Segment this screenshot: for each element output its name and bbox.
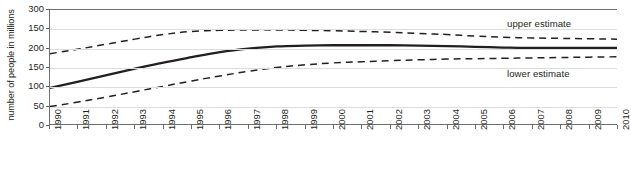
x-tick-label: 1999 (309, 109, 318, 130)
x-tick-mark (305, 125, 306, 129)
x-tick-label: 2004 (451, 109, 460, 130)
x-tick-mark (134, 125, 135, 129)
x-tick-label: 2009 (593, 109, 602, 130)
x-tick-mark (560, 125, 561, 129)
x-tick-label: 1993 (138, 109, 147, 130)
x-tick-mark (163, 125, 164, 129)
x-tick-mark (589, 125, 590, 129)
x-tick-label: 2001 (365, 109, 374, 130)
x-tick-mark (219, 125, 220, 129)
x-tick-mark (361, 125, 362, 129)
x-tick-mark (49, 125, 50, 129)
x-tick-mark (532, 125, 533, 129)
x-tick-mark (390, 125, 391, 129)
figure-caption (2, 173, 621, 180)
lower-estimate-label: lower estimate (507, 68, 570, 79)
x-tick-mark (418, 125, 419, 129)
upper-estimate-label: upper estimate (507, 18, 571, 29)
x-tick-label: 2005 (479, 109, 488, 130)
x-tick-label: 2002 (394, 109, 403, 130)
x-tick-label: 2000 (337, 109, 346, 130)
x-tick-mark (617, 125, 618, 129)
x-tick-label: 1995 (195, 109, 204, 130)
x-tick-mark (248, 125, 249, 129)
x-tick-mark (77, 125, 78, 129)
x-tick-mark (503, 125, 504, 129)
x-tick-mark (106, 125, 107, 129)
x-tick-label: 1991 (81, 109, 90, 130)
x-tick-label: 2007 (536, 109, 545, 130)
x-tick-label: 2003 (422, 109, 431, 130)
x-tick-mark (447, 125, 448, 129)
x-tick-label: 1996 (223, 109, 232, 130)
x-tick-mark (333, 125, 334, 129)
x-tick-mark (276, 125, 277, 129)
x-tick-label: 1994 (167, 109, 176, 130)
x-tick-label: 1998 (280, 109, 289, 130)
x-tick-label: 2006 (507, 109, 516, 130)
x-tick-label: 2010 (621, 109, 630, 130)
x-tick-mark (191, 125, 192, 129)
x-tick-label: 1990 (53, 109, 62, 130)
x-tick-mark (475, 125, 476, 129)
x-tick-label: 2008 (564, 109, 573, 130)
x-tick-label: 1992 (110, 109, 119, 130)
x-tick-label: 1997 (252, 109, 261, 130)
